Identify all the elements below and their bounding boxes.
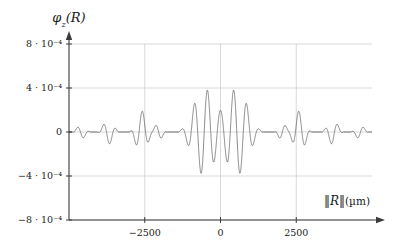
tick-labels: −2500025008 · 10⁻⁴4 · 10⁻⁴0−4 · 10⁻⁴−8 ·…: [18, 38, 308, 238]
svg-text:φz(R): φz(R): [52, 10, 85, 29]
tick-marks: [66, 44, 296, 223]
x-tick-label: 2500: [284, 227, 308, 238]
chart-canvas: −2500025008 · 10⁻⁴4 · 10⁻⁴0−4 · 10⁻⁴−8 ·…: [0, 0, 399, 249]
y-tick-label: 0: [56, 126, 62, 137]
y-tick-label: 4 · 10⁻⁴: [26, 82, 62, 93]
x-tick-label: 0: [217, 227, 223, 238]
y-tick-label: 8 · 10⁻⁴: [26, 38, 62, 49]
x-axis-label: ‖R‖(µm): [324, 194, 370, 208]
y-tick-label: −4 · 10⁻⁴: [18, 170, 62, 181]
chart-figure: −2500025008 · 10⁻⁴4 · 10⁻⁴0−4 · 10⁻⁴−8 ·…: [0, 0, 399, 249]
x-tick-label: −2500: [129, 227, 161, 238]
svg-text:‖R‖(µm): ‖R‖(µm): [324, 194, 370, 208]
y-axis-label: φz(R): [52, 10, 85, 29]
y-tick-label: −8 · 10⁻⁴: [18, 214, 62, 225]
